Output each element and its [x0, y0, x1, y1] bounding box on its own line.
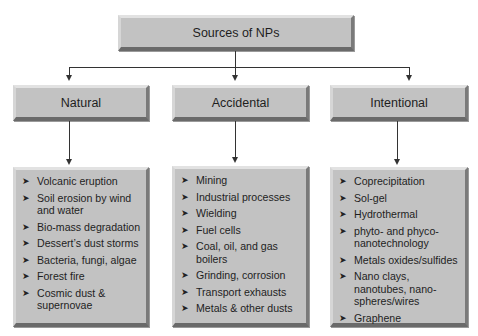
arrow-to-accidental-icon	[232, 75, 238, 81]
bullet-arrow-icon: ➤	[181, 224, 189, 237]
accidental-sources-list: ➤Mining ➤Industrial processes ➤Wielding …	[172, 166, 309, 327]
bullet-arrow-icon: ➤	[22, 287, 30, 300]
list-item: ➤Bacteria, fungi, algae	[22, 254, 142, 267]
list-item: ➤Metals & other dusts	[181, 302, 302, 315]
list-item: ➤Metals oxides/sulfides	[339, 254, 461, 267]
list-item: ➤Hydrothermal	[339, 208, 461, 221]
connector-intentional-list	[397, 121, 398, 159]
bullet-arrow-icon: ➤	[181, 191, 189, 204]
list-item: ➤Soil erosion by wind and water	[22, 192, 142, 217]
category-intentional: Intentional	[330, 85, 468, 121]
bullet-arrow-icon: ➤	[339, 225, 347, 238]
list-item: ➤Transport exhausts	[181, 286, 302, 299]
bullet-arrow-icon: ➤	[22, 192, 30, 205]
arrow-to-intentional-icon	[406, 75, 412, 81]
connector-natural-list	[69, 121, 70, 159]
category-natural: Natural	[13, 85, 149, 121]
arrow-to-natural-list-icon	[66, 159, 72, 165]
bullet-arrow-icon: ➤	[22, 175, 30, 188]
bullet-arrow-icon: ➤	[339, 312, 347, 325]
natural-sources-list: ➤Volcanic eruption ➤Soil erosion by wind…	[13, 167, 149, 327]
list-item: ➤Volcanic eruption	[22, 175, 142, 188]
list-item: ➤Cosmic dust & supernovae	[22, 287, 142, 312]
category-intentional-label: Intentional	[370, 96, 428, 110]
category-accidental: Accidental	[172, 85, 309, 121]
list-item: ➤Coal, oil, and gas boilers	[181, 240, 302, 265]
bullet-arrow-icon: ➤	[181, 240, 189, 253]
list-item: ➤Fuel cells	[181, 224, 302, 237]
bullet-arrow-icon: ➤	[181, 269, 189, 282]
list-item: ➤Coprecipitation	[339, 175, 461, 188]
bullet-arrow-icon: ➤	[181, 302, 189, 315]
intentional-sources-list: ➤Coprecipitation ➤Sol-gel ➤Hydrothermal …	[330, 167, 468, 327]
connector-horizontal	[69, 67, 410, 68]
bullet-arrow-icon: ➤	[339, 270, 347, 283]
list-item: ➤Sol-gel	[339, 192, 461, 205]
connector-root-down	[235, 51, 236, 68]
arrow-to-natural-icon	[66, 75, 72, 81]
root-node-sources-of-nps: Sources of NPs	[118, 15, 354, 51]
arrow-to-accidental-list-icon	[232, 157, 238, 163]
bullet-arrow-icon: ➤	[181, 286, 189, 299]
arrow-to-intentional-list-icon	[394, 159, 400, 165]
category-natural-label: Natural	[61, 96, 101, 110]
list-item: ➤Graphene	[339, 312, 461, 325]
category-accidental-label: Accidental	[212, 96, 270, 110]
list-item: ➤Nano clays, nanotubes, nano-spheres/wir…	[339, 270, 461, 308]
list-item: ➤Grinding, corrosion	[181, 269, 302, 282]
list-item: ➤Forest fire	[22, 270, 142, 283]
connector-accidental-list	[235, 121, 236, 158]
list-item: ➤Wielding	[181, 207, 302, 220]
bullet-arrow-icon: ➤	[339, 192, 347, 205]
list-item: ➤phyto- and phyco-nanotechnology	[339, 225, 461, 250]
root-node-label: Sources of NPs	[193, 26, 280, 40]
list-item: ➤Bio-mass degradation	[22, 221, 142, 234]
list-item: ➤Industrial processes	[181, 191, 302, 204]
list-item: ➤Dessert’s dust storms	[22, 237, 142, 250]
bullet-arrow-icon: ➤	[22, 270, 30, 283]
bullet-arrow-icon: ➤	[22, 237, 30, 250]
list-item: ➤Mining	[181, 174, 302, 187]
bullet-arrow-icon: ➤	[22, 254, 30, 267]
bullet-arrow-icon: ➤	[339, 175, 347, 188]
bullet-arrow-icon: ➤	[339, 208, 347, 221]
bullet-arrow-icon: ➤	[181, 174, 189, 187]
bullet-arrow-icon: ➤	[181, 207, 189, 220]
bullet-arrow-icon: ➤	[339, 254, 347, 267]
bullet-arrow-icon: ➤	[22, 221, 30, 234]
